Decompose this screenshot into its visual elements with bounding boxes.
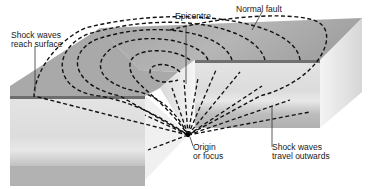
label-text: Normal fault — [236, 4, 282, 14]
label-origin-focus: Origin or focus — [193, 143, 223, 161]
downthrown-bottom-stratum — [10, 166, 145, 186]
label-line: or focus — [193, 152, 223, 161]
downthrown-dark-stratum — [10, 96, 145, 99]
upthrown-front-face — [195, 60, 320, 128]
label-shock-waves-travel-outwards: Shock waves travel outwards — [272, 143, 330, 161]
label-line: reach surface — [11, 40, 63, 49]
label-shock-waves-reach-surface: Shock waves reach surface — [11, 31, 63, 49]
upthrown-dark-stratum — [195, 60, 320, 63]
label-line: travel outwards — [272, 152, 330, 161]
label-normal-fault: Normal fault — [236, 5, 282, 14]
label-epicentre: Epicentre — [175, 12, 211, 21]
focus-point — [186, 133, 190, 137]
label-text: Epicentre — [175, 11, 211, 21]
